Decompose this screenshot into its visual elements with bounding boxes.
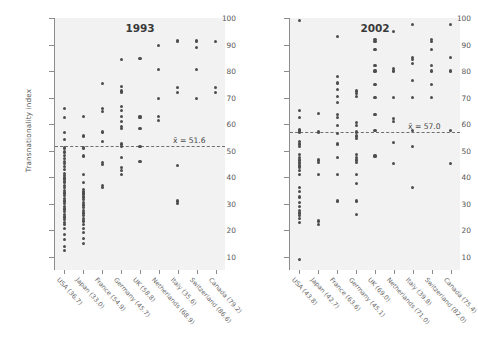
data-point — [63, 245, 66, 248]
data-point — [63, 249, 66, 252]
x-tick-5-2002 — [394, 270, 395, 274]
y-tick-50-2002 — [284, 151, 289, 152]
data-point — [336, 75, 339, 78]
data-point — [336, 132, 339, 135]
data-point — [298, 217, 301, 220]
y-tick-90-2002 — [284, 45, 289, 46]
data-point — [373, 129, 376, 132]
data-point — [336, 156, 339, 159]
y-axis-1993 — [54, 18, 55, 270]
x-tick-0-2002 — [299, 270, 300, 274]
data-point — [298, 201, 301, 204]
data-point — [138, 127, 141, 130]
data-point — [336, 81, 339, 84]
data-point — [82, 219, 85, 222]
x-tick-8-1993 — [216, 270, 217, 274]
x-tick-4-1993 — [140, 270, 141, 274]
data-point — [101, 82, 104, 85]
data-point — [214, 91, 217, 94]
data-point — [120, 85, 123, 88]
data-point — [355, 213, 358, 216]
x-tick-0-1993 — [64, 270, 65, 274]
y-tick-100-2002 — [284, 18, 289, 19]
x-tick-1-1993 — [83, 270, 84, 274]
y-tick-30-1993 — [49, 204, 54, 205]
y-tick-70-1993 — [49, 98, 54, 99]
x-tick-2-2002 — [337, 270, 338, 274]
data-point — [63, 233, 66, 236]
data-point — [63, 107, 66, 110]
y-tick-10-1993 — [49, 257, 54, 258]
data-point — [82, 173, 85, 176]
data-point — [298, 130, 301, 133]
y-tick-label-10-2002: 10 — [425, 252, 471, 261]
y-tick-40-2002 — [284, 177, 289, 178]
data-point — [317, 173, 320, 176]
data-point — [138, 145, 141, 148]
data-point — [336, 124, 339, 127]
y-tick-40-1993 — [49, 177, 54, 178]
y-tick-label-40-2002: 40 — [425, 173, 471, 182]
data-point — [355, 199, 358, 202]
data-point — [82, 146, 85, 149]
data-point — [298, 221, 301, 224]
x-tick-2-1993 — [102, 270, 103, 274]
data-point — [82, 134, 85, 137]
data-point — [336, 173, 339, 176]
y-tick-80-2002 — [284, 71, 289, 72]
data-point — [82, 115, 85, 118]
panel-2002: 2002 102030405060708090100USA (43.8)Japa… — [235, 0, 471, 339]
data-point — [298, 195, 301, 198]
data-point — [298, 205, 301, 208]
x-tick-6-1993 — [178, 270, 179, 274]
y-tick-label-50-1993: 50 — [190, 146, 236, 155]
x-tick-5-1993 — [159, 270, 160, 274]
data-point — [63, 168, 66, 171]
panel-1993: 1993 102030405060708090100USA (36.7)Japa… — [0, 0, 236, 339]
y-tick-label-100-2002: 100 — [425, 14, 471, 23]
data-point — [101, 110, 104, 113]
y-tick-10-2002 — [284, 257, 289, 258]
y-tick-label-20-2002: 20 — [425, 226, 471, 235]
data-point — [373, 69, 376, 72]
y-tick-70-2002 — [284, 98, 289, 99]
data-point — [317, 219, 320, 222]
data-point — [336, 95, 339, 98]
data-point — [336, 116, 339, 119]
data-point — [63, 146, 66, 149]
mean-label-1993: x̄ = 51.6 — [173, 136, 206, 145]
data-point — [214, 86, 217, 89]
data-point — [336, 142, 339, 145]
data-point — [355, 130, 358, 133]
data-point — [120, 169, 123, 172]
x-tick-4-2002 — [375, 270, 376, 274]
x-tick-8-2002 — [451, 270, 452, 274]
data-point — [101, 163, 104, 166]
data-point — [373, 154, 376, 157]
x-tick-1-2002 — [318, 270, 319, 274]
y-tick-90-1993 — [49, 45, 54, 46]
data-point — [298, 258, 301, 261]
y-tick-60-2002 — [284, 124, 289, 125]
data-point — [336, 88, 339, 91]
data-point — [120, 145, 123, 148]
data-point — [82, 181, 85, 184]
mean-line-2002 — [290, 132, 460, 133]
data-point — [138, 116, 141, 119]
data-point — [101, 140, 104, 143]
x-tick-7-2002 — [432, 270, 433, 274]
data-point — [317, 130, 320, 133]
data-point — [120, 156, 123, 159]
data-point — [120, 58, 123, 61]
data-point — [355, 137, 358, 140]
y-tick-50-1993 — [49, 151, 54, 152]
y-tick-30-2002 — [284, 204, 289, 205]
x-tick-3-2002 — [356, 270, 357, 274]
x-tick-7-1993 — [197, 270, 198, 274]
y-tick-label-50-2002: 50 — [425, 146, 471, 155]
data-point — [355, 124, 358, 127]
y-tick-label-30-2002: 30 — [425, 199, 471, 208]
data-point — [120, 120, 123, 123]
y-tick-100-1993 — [49, 18, 54, 19]
